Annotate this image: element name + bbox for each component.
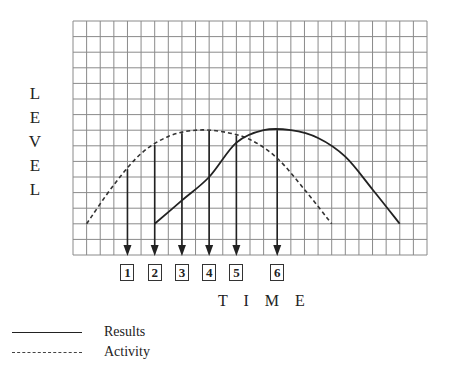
legend-label: Activity (104, 344, 150, 360)
marker-box-1: 1 (120, 264, 134, 281)
ylabel-letter: L (27, 178, 43, 202)
solid-line-swatch (12, 332, 82, 333)
grid (73, 21, 427, 255)
y-axis-label: L E V E L (27, 82, 43, 202)
marker-box-6: 6 (270, 264, 284, 281)
marker-box-2: 2 (148, 264, 162, 281)
legend-label: Results (104, 324, 145, 340)
marker-box-3: 3 (175, 264, 189, 281)
ylabel-letter: E (27, 154, 43, 178)
ylabel-letter: E (27, 106, 43, 130)
level-time-chart (0, 0, 451, 375)
marker-box-5: 5 (229, 264, 243, 281)
x-axis-label: T I M E (218, 292, 311, 310)
ylabel-letter: V (27, 130, 43, 154)
marker-box-4: 4 (202, 264, 216, 281)
dashed-line-swatch (12, 352, 82, 353)
ylabel-letter: L (27, 82, 43, 106)
